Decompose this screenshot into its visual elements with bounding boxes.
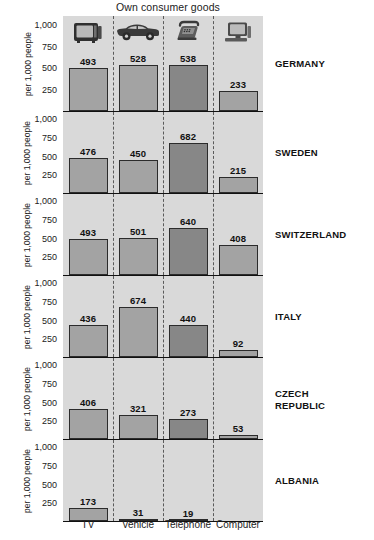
bar-slot-tv: 173 bbox=[63, 440, 113, 521]
bar[interactable] bbox=[219, 350, 258, 357]
country-panel: per 1,000 people2505007501,0004935016404… bbox=[0, 194, 374, 276]
bar[interactable] bbox=[69, 239, 108, 275]
y-tick-label: 750 bbox=[42, 215, 57, 225]
bar-slot-tv: 493 bbox=[63, 16, 113, 111]
country-label: CZECHREPUBLIC bbox=[269, 388, 374, 411]
y-tick-label: 750 bbox=[42, 297, 57, 307]
bar[interactable] bbox=[119, 160, 158, 193]
panel-stack: per 1,000 people2505007501,0004935285382… bbox=[0, 16, 374, 522]
bar[interactable] bbox=[169, 419, 208, 439]
bar[interactable] bbox=[69, 158, 108, 193]
bar-slot-vehicle: 450 bbox=[113, 112, 163, 193]
country-panel: per 1,000 people2505007501,0004935285382… bbox=[0, 16, 374, 112]
bar[interactable] bbox=[219, 245, 258, 275]
plot-area: 40632127353 bbox=[63, 358, 263, 440]
y-tick-label: 250 bbox=[42, 85, 57, 95]
y-tick-label: 1,000 bbox=[34, 196, 57, 206]
bar-group: 40632127353 bbox=[63, 358, 263, 439]
bar-value-label: 450 bbox=[113, 148, 163, 159]
bar-slot-tv: 493 bbox=[63, 194, 113, 275]
y-tick-label: 250 bbox=[42, 416, 57, 426]
bar-slot-vehicle: 31 bbox=[113, 440, 163, 521]
y-axis-ticks: 2505007501,000 bbox=[22, 194, 60, 276]
y-axis-ticks: 2505007501,000 bbox=[22, 358, 60, 440]
y-tick-label: 250 bbox=[42, 334, 57, 344]
chart-title: Own consumer goods bbox=[63, 1, 273, 13]
bar-value-label: 674 bbox=[113, 295, 163, 306]
y-tick-label: 500 bbox=[42, 316, 57, 326]
bar-slot-vehicle: 674 bbox=[113, 276, 163, 357]
x-tick-vehicle: Vehicle bbox=[113, 519, 163, 530]
y-tick-label: 1,000 bbox=[34, 278, 57, 288]
country-label: SWEDEN bbox=[269, 147, 374, 159]
bar-group: 1733119 bbox=[63, 440, 263, 521]
x-tick-tv: TV bbox=[63, 519, 113, 530]
bar[interactable] bbox=[169, 228, 208, 275]
bar-value-label: 436 bbox=[63, 313, 113, 324]
bar-value-label: 538 bbox=[163, 53, 213, 64]
bar[interactable] bbox=[69, 409, 108, 439]
y-tick-label: 500 bbox=[42, 398, 57, 408]
y-tick-label: 1,000 bbox=[34, 442, 57, 452]
country-label: SWITZERLAND bbox=[269, 229, 374, 241]
x-tick-telephone: Telephone bbox=[163, 519, 213, 530]
y-axis-ticks: 2505007501,000 bbox=[22, 16, 60, 112]
bar[interactable] bbox=[169, 65, 208, 111]
bar-slot-telephone: 273 bbox=[163, 358, 213, 439]
bar-value-label: 493 bbox=[63, 56, 113, 67]
y-tick-label: 250 bbox=[42, 252, 57, 262]
country-panel: per 1,000 people2505007501,0001733119ALB… bbox=[0, 440, 374, 522]
y-tick-label: 750 bbox=[42, 379, 57, 389]
y-tick-label: 500 bbox=[42, 234, 57, 244]
bar[interactable] bbox=[119, 415, 158, 439]
bar[interactable] bbox=[219, 177, 258, 193]
bar[interactable] bbox=[119, 65, 158, 111]
country-label: ALBANIA bbox=[269, 475, 374, 487]
country-label-line: CZECH bbox=[275, 388, 374, 400]
y-tick-label: 750 bbox=[42, 42, 57, 52]
bar-slot-computer: 53 bbox=[213, 358, 263, 439]
plot-area: 493528538233 bbox=[63, 16, 263, 112]
y-tick-label: 750 bbox=[42, 133, 57, 143]
bar[interactable] bbox=[119, 307, 158, 357]
bar-slot-vehicle: 321 bbox=[113, 358, 163, 439]
bar[interactable] bbox=[169, 143, 208, 193]
x-axis: TVVehicleTelephoneComputer bbox=[63, 519, 263, 530]
bar-slot-telephone: 440 bbox=[163, 276, 213, 357]
bar-value-label: 408 bbox=[213, 233, 263, 244]
bar[interactable] bbox=[169, 325, 208, 357]
plot-area: 1733119 bbox=[63, 440, 263, 522]
country-panel: per 1,000 people2505007501,0004366744409… bbox=[0, 276, 374, 358]
bar-value-label: 406 bbox=[63, 397, 113, 408]
bar-slot-tv: 406 bbox=[63, 358, 113, 439]
bar-value-label: 53 bbox=[213, 423, 263, 434]
bar-group: 43667444092 bbox=[63, 276, 263, 357]
y-tick-label: 250 bbox=[42, 170, 57, 180]
bar-slot-telephone: 640 bbox=[163, 194, 213, 275]
y-axis-ticks: 2505007501,000 bbox=[22, 440, 60, 522]
bar[interactable] bbox=[69, 68, 108, 111]
bar[interactable] bbox=[69, 325, 108, 357]
bar-value-label: 682 bbox=[163, 131, 213, 142]
consumer-goods-chart: Own consumer goods per 1,000 people25050… bbox=[0, 0, 374, 540]
y-tick-label: 1,000 bbox=[34, 114, 57, 124]
country-label: GERMANY bbox=[269, 58, 374, 70]
y-tick-label: 500 bbox=[42, 63, 57, 73]
bar-value-label: 31 bbox=[113, 507, 163, 518]
bar-slot-computer: 408 bbox=[213, 194, 263, 275]
country-label-line: REPUBLIC bbox=[275, 399, 374, 411]
bar-slot-tv: 436 bbox=[63, 276, 113, 357]
bar-value-label: 173 bbox=[63, 496, 113, 507]
bar-value-label: 92 bbox=[213, 338, 263, 349]
bar-slot-telephone: 682 bbox=[163, 112, 213, 193]
bar[interactable] bbox=[219, 435, 258, 439]
bar-value-label: 273 bbox=[163, 407, 213, 418]
y-axis-ticks: 2505007501,000 bbox=[22, 112, 60, 194]
plot-area: 43667444092 bbox=[63, 276, 263, 358]
bar-value-label: 501 bbox=[113, 226, 163, 237]
y-tick-label: 1,000 bbox=[34, 20, 57, 30]
bar[interactable] bbox=[219, 91, 258, 111]
bar-value-label: 19 bbox=[163, 508, 213, 519]
bar-slot-computer: 215 bbox=[213, 112, 263, 193]
bar[interactable] bbox=[119, 238, 158, 275]
